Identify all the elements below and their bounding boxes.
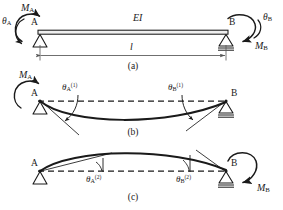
moment-a-label-panel-a: MA [21, 3, 34, 14]
support-roller-b-c [218, 169, 234, 187]
angle-leader-a-c [96, 158, 103, 172]
theta-b-label-panel-b: θB(1) [168, 83, 183, 92]
span-length-label: l [130, 42, 133, 52]
moment-a-label-panel-b: MA [19, 70, 32, 81]
deflection-curve-b [40, 101, 226, 120]
node-b-label-panel-a: B [229, 18, 235, 28]
support-roller-b-b [218, 99, 234, 117]
node-a-label-panel-b: A [31, 89, 38, 99]
angle-leader-a-b [65, 95, 78, 121]
panel-b-graphics [14, 81, 234, 135]
support-pin-a-c [33, 169, 47, 184]
beam-member-a [38, 30, 228, 34]
angle-leader-b-b [182, 95, 193, 120]
caption-panel-b: (b) [113, 128, 153, 138]
figure-vector-graphics [0, 0, 283, 210]
panel-c-graphics [33, 150, 257, 187]
deflection-curve-c [40, 153, 226, 171]
beam-stiffness-label: EI [133, 13, 142, 23]
theta-a-label-panel-b: θA(1) [62, 83, 77, 92]
theta-a-label-panel-a: θA [2, 17, 11, 27]
theta-b-label-panel-a: θB [263, 13, 272, 23]
moment-b-label-panel-c: MB [257, 183, 270, 194]
tangent-line-b-c [196, 150, 225, 171]
span-dimension-line [40, 45, 226, 61]
theta-b-label-panel-c: θB(2) [176, 175, 191, 184]
support-pin-a-b [33, 99, 47, 114]
node-b-label-panel-b: B [231, 89, 237, 99]
beam-deflection-figure: MA θA A EI B θB MB l (a) MA A θA(1) θB(1… [0, 0, 283, 210]
node-a-label-panel-a: A [31, 18, 38, 28]
theta-a-label-panel-c: θA(2) [86, 175, 101, 184]
caption-panel-c: (c) [113, 193, 153, 203]
node-b-label-panel-c: B [231, 159, 237, 169]
tangent-line-a-b [41, 101, 79, 135]
caption-panel-a: (a) [113, 62, 153, 72]
tangent-line-b-b [186, 102, 225, 132]
node-a-label-panel-c: A [31, 159, 38, 169]
moment-b-label-panel-a: MB [255, 41, 268, 52]
